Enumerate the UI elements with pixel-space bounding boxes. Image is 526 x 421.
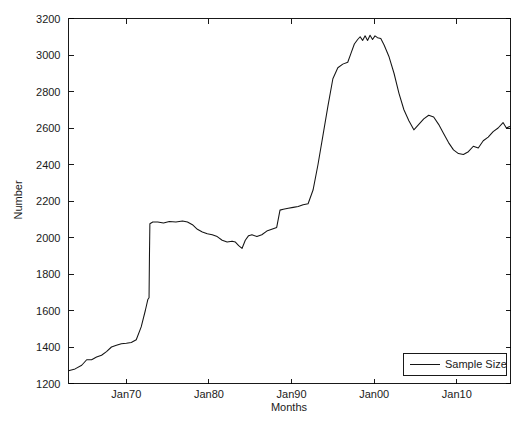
y-tick-label: 2600 — [36, 122, 60, 134]
y-tick-label: 2200 — [36, 195, 60, 207]
y-tick-label: 1400 — [36, 341, 60, 353]
x-axis-title-group: Months — [271, 401, 308, 413]
y-tick-label: 2800 — [36, 86, 60, 98]
x-tick-label: Jan80 — [194, 388, 224, 400]
y-axis-title: Number — [12, 180, 24, 219]
y-tick-label: 2400 — [36, 159, 60, 171]
y-tick-label: 2000 — [36, 232, 60, 244]
x-tick-label: Jan70 — [111, 388, 141, 400]
legend[interactable]: Sample Size — [404, 354, 507, 376]
x-tick-label: Jan90 — [277, 388, 307, 400]
x-tick-label: Jan00 — [359, 388, 389, 400]
y-tick-label: 3200 — [36, 13, 60, 25]
legend-label-sample-size: Sample Size — [445, 358, 507, 370]
y-axis-title-group: Number — [12, 180, 24, 219]
x-axis-title: Months — [271, 401, 308, 413]
line-chart: 1200140016001800200022002400260028003000… — [0, 0, 526, 421]
x-tick-label: Jan10 — [442, 388, 472, 400]
figure-container: 1200140016001800200022002400260028003000… — [0, 0, 526, 421]
y-tick-label: 1600 — [36, 305, 60, 317]
y-tick-label: 1800 — [36, 268, 60, 280]
y-tick-label: 3000 — [36, 49, 60, 61]
y-tick-label: 1200 — [36, 378, 60, 390]
